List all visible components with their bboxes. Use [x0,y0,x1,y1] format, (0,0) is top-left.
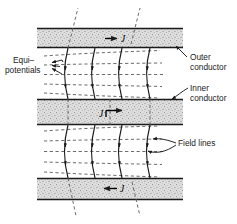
equipotential-line [44,162,162,165]
equipotentials-label-group: Equi– potentials [5,55,63,75]
field-lines-label: Field lines [178,138,215,148]
field-line [92,48,95,99]
inner-conductor-label-line1: Inner [190,83,209,93]
equipotential-line [44,63,162,65]
field-lines-label-group: Field lines [148,138,215,152]
equipotentials-label-line1: Equi– [13,55,35,65]
outer-conductor-label-group: Outer conductor [176,46,227,72]
equipotentials-label-line2: potentials [5,65,41,75]
equipotentials-leader-fan [52,60,63,74]
field-lines-leader-arrow [148,145,176,152]
equipotential-line [44,126,160,131]
field-line-direction-ticks-lower [65,143,147,165]
field-line [65,48,68,99]
field-lines-upper-gap [65,48,150,99]
equipotential-line [44,172,160,177]
equipotential-line [44,139,162,141]
equipotentials-leader-arrow [52,69,62,75]
equipotentials-leader-arrow [52,66,60,67]
inner-conductor-label-line2: conductor [190,93,227,103]
conductor-bands [37,28,183,200]
equipotential-line [44,93,160,98]
equipotentials-leader-join [62,60,63,62]
field-line [119,48,122,99]
equipotential-lines-lower-gap [44,126,163,177]
equipotentials-leader-arrow [52,60,62,63]
outer-conductor-label-line1: Outer [190,52,211,62]
field-lines-leader-fork [148,139,176,153]
equipotential-line [44,51,160,57]
outer-conductor-label-line2: conductor [190,62,227,72]
field-line-direction-ticks-upper [65,66,147,88]
inner-conductor-leader-line [172,88,188,99]
transmission-line-field-diagram: J J J Equi– potentials Outer conductor I… [0,0,237,224]
equipotential-line [44,84,162,87]
field-line [147,48,150,99]
